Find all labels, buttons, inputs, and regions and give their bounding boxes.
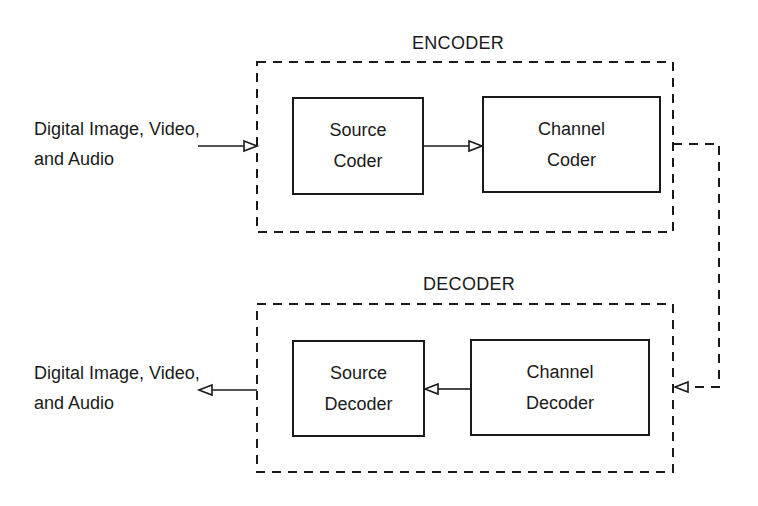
source-decoder-line-2: Decoder bbox=[324, 389, 392, 420]
input-label-line-1: Digital Image, Video, bbox=[34, 114, 200, 144]
channel-decoder-line-2: Decoder bbox=[526, 388, 594, 419]
output-arrow bbox=[199, 385, 257, 395]
channel-decoder-line-1: Channel bbox=[526, 357, 593, 388]
decoder-title: DECODER bbox=[423, 274, 515, 295]
channel-coder-block: Channel Coder bbox=[482, 96, 661, 193]
source-coder-block: Source Coder bbox=[292, 97, 424, 195]
output-label: Digital Image, Video, and Audio bbox=[34, 358, 200, 418]
source-decoder-line-1: Source bbox=[330, 358, 387, 389]
input-label: Digital Image, Video, and Audio bbox=[34, 114, 200, 174]
source-coder-line-1: Source bbox=[329, 115, 386, 146]
input-label-line-2: and Audio bbox=[34, 144, 200, 174]
channel-decoder-block: Channel Decoder bbox=[470, 339, 650, 436]
output-label-line-2: and Audio bbox=[34, 388, 200, 418]
encoder-title: ENCODER bbox=[412, 33, 504, 54]
source-decoder-block: Source Decoder bbox=[292, 340, 425, 437]
channel-coder-line-2: Coder bbox=[547, 145, 596, 176]
output-label-line-1: Digital Image, Video, bbox=[34, 358, 200, 388]
input-arrow bbox=[198, 141, 257, 151]
channel-coder-line-1: Channel bbox=[538, 114, 605, 145]
channel-path bbox=[673, 144, 719, 392]
source-coder-line-2: Coder bbox=[333, 146, 382, 177]
coder-arrow bbox=[424, 141, 482, 151]
decoder-arrow bbox=[425, 384, 470, 394]
